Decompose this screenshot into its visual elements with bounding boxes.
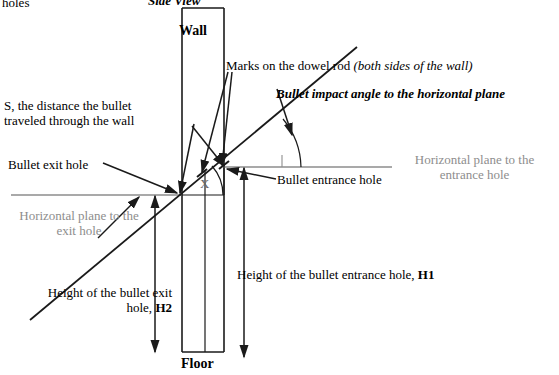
height-exit-line2-text: hole, <box>126 300 155 315</box>
ballistics-side-view-diagram: holes Side View Wall Marks on the dowel … <box>0 0 559 375</box>
exit-angle-symbol-label: X <box>200 176 209 191</box>
floor-label: Floor <box>181 356 214 371</box>
diagram-canvas <box>0 0 559 375</box>
bullet-exit-hole-label: Bullet exit hole <box>8 157 88 172</box>
height-exit-line1: Height of the bullet exit <box>48 285 172 300</box>
hp-exit-line1: Horizontal plane to the <box>19 208 139 223</box>
bullet-impact-angle-label: Bullet impact angle to the horizontal pl… <box>276 86 505 101</box>
wall-label: Wall <box>179 23 207 38</box>
impact-angle-arc <box>283 119 301 167</box>
height-entrance-symbol: H1 <box>418 267 435 282</box>
leader-bullet-entrance-hole <box>227 169 276 179</box>
height-exit-label: Height of the bullet exithole, H2 <box>7 285 172 315</box>
exit-angle-arc <box>212 166 223 195</box>
height-entrance-text: Height of the bullet entrance hole, <box>237 267 418 282</box>
hp-exit-line2: exit hole <box>56 223 101 238</box>
bullet-entrance-hole-label: Bullet entrance hole <box>277 172 382 187</box>
horizontal-plane-entrance-label: Horizontal plane to theentrance hole <box>392 152 557 182</box>
marks-on-dowel-italic: (both sides of the wall) <box>353 58 472 73</box>
horizontal-plane-entrance-line <box>223 155 392 167</box>
top-fragment-text: holes <box>2 0 29 10</box>
s-distance-label: S, the distance the bullettraveled throu… <box>4 98 214 128</box>
hp-entrance-line2: entrance hole <box>440 167 510 182</box>
height-entrance-label: Height of the bullet entrance hole, H1 <box>237 267 434 282</box>
horizontal-plane-exit-label: Horizontal plane to theexit hole <box>4 208 154 238</box>
diagram-title: Side View <box>148 0 200 8</box>
height-exit-symbol: H2 <box>155 300 172 315</box>
marks-on-dowel-plain: Marks on the dowel rod <box>226 58 353 73</box>
hp-entrance-line1: Horizontal plane to the <box>415 152 535 167</box>
s-distance-line1: S, the distance the bullet <box>4 98 131 113</box>
leader-bullet-exit-hole <box>103 163 177 193</box>
marks-on-dowel-label: Marks on the dowel rod (both sides of th… <box>226 58 473 73</box>
s-distance-line2: traveled through the wall <box>4 113 134 128</box>
